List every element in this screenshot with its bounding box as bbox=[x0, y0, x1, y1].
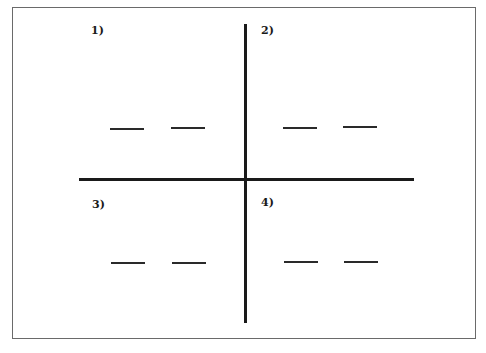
quadrant-2-blank-2[interactable] bbox=[343, 126, 377, 128]
vertical-axis bbox=[244, 24, 247, 323]
quadrant-3-blank-2[interactable] bbox=[172, 262, 206, 264]
quadrant-2-label: 2) bbox=[261, 25, 274, 37]
quadrant-1-blank-1[interactable] bbox=[110, 128, 144, 130]
quadrant-2-blank-1[interactable] bbox=[283, 127, 317, 129]
quadrant-3-label: 3) bbox=[92, 199, 105, 211]
quadrant-1-blank-2[interactable] bbox=[171, 127, 205, 129]
quadrant-1-label: 1) bbox=[91, 25, 104, 37]
quadrant-4-blank-1[interactable] bbox=[284, 261, 318, 263]
quadrant-4-label: 4) bbox=[261, 197, 274, 209]
quadrant-4-blank-2[interactable] bbox=[344, 261, 378, 263]
quadrant-3-blank-1[interactable] bbox=[111, 262, 145, 264]
